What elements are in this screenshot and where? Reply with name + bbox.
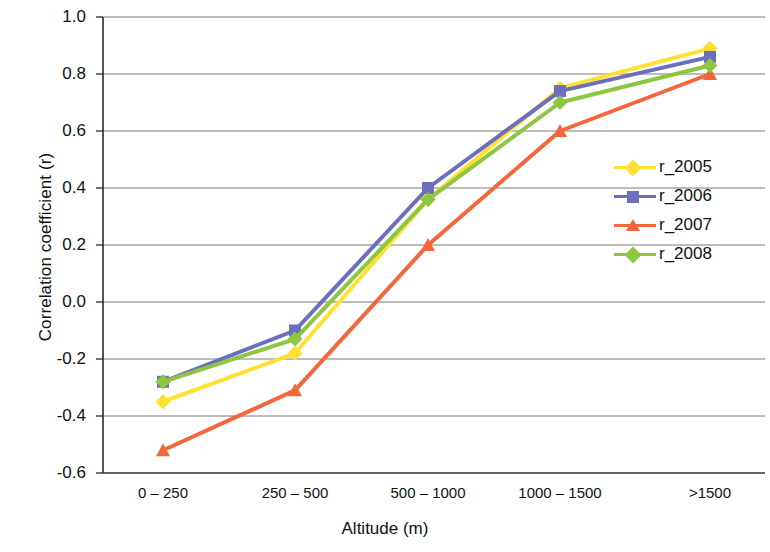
plot-area <box>0 0 770 552</box>
legend-swatch-icon <box>614 158 656 176</box>
legend-item-r_2007: r_2007 <box>614 210 764 239</box>
chart-legend: r_2005r_2006r_2007r_2008 <box>614 152 764 268</box>
legend-marker-diamond-icon <box>625 246 642 263</box>
marker-diamond <box>156 394 171 409</box>
legend-swatch-icon <box>614 245 656 263</box>
legend-swatch-icon <box>614 216 656 234</box>
legend-item-r_2008: r_2008 <box>614 239 764 268</box>
x-tick-label: 0 – 250 <box>138 484 188 501</box>
legend-label: r_2005 <box>659 157 712 177</box>
x-tick-label: 1000 – 1500 <box>518 484 601 501</box>
x-tick-label: 250 – 500 <box>262 484 329 501</box>
legend-marker-square-icon <box>627 191 639 203</box>
legend-marker-triangle-icon <box>626 219 640 231</box>
legend-item-r_2005: r_2005 <box>614 152 764 181</box>
correlation-altitude-chart: Correlation coefficient (r) 1.00.80.60.4… <box>0 0 770 552</box>
legend-label: r_2008 <box>659 244 712 264</box>
x-axis-title: Altitude (m) <box>0 519 770 539</box>
legend-swatch-icon <box>614 187 656 205</box>
x-tick-label: >1500 <box>689 484 731 501</box>
legend-marker-diamond-icon <box>625 159 642 176</box>
legend-item-r_2006: r_2006 <box>614 181 764 210</box>
legend-label: r_2007 <box>659 215 712 235</box>
legend-label: r_2006 <box>659 186 712 206</box>
x-tick-label: 500 – 1000 <box>390 484 465 501</box>
